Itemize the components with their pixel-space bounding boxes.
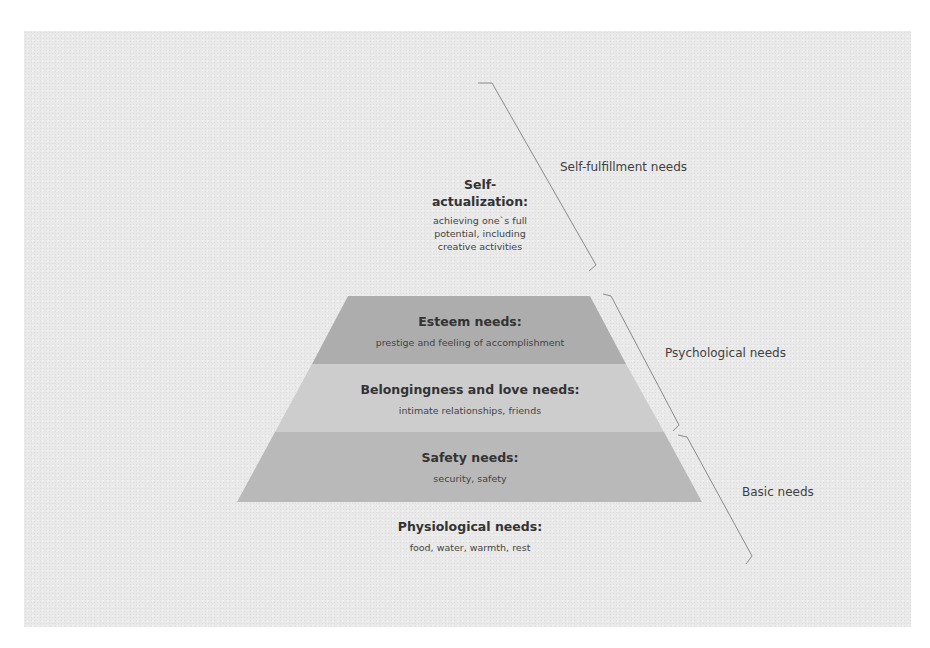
level-safety: Safety needs: security, safety xyxy=(340,449,600,485)
group-label-self-fulfillment: Self-fulfillment needs xyxy=(560,160,687,174)
level-esteem: Esteem needs: prestige and feeling of ac… xyxy=(320,313,620,349)
level-description: achieving one`s full xyxy=(400,214,560,227)
level-self-actualization: Self- actualization: achieving one`s ful… xyxy=(400,176,560,253)
level-title: Self- xyxy=(400,176,560,193)
level-title: Belongingness and love needs: xyxy=(300,381,640,398)
level-title: Esteem needs: xyxy=(320,313,620,330)
level-physiological: Physiological needs: food, water, warmth… xyxy=(330,518,610,554)
level-title: Physiological needs: xyxy=(330,518,610,535)
level-belongingness: Belongingness and love needs: intimate r… xyxy=(300,381,640,417)
level-title: actualization: xyxy=(400,193,560,210)
level-description: food, water, warmth, rest xyxy=(330,541,610,554)
level-title: Safety needs: xyxy=(340,449,600,466)
level-description: security, safety xyxy=(340,472,600,485)
group-label-basic: Basic needs xyxy=(742,485,814,499)
level-description: intimate relationships, friends xyxy=(300,404,640,417)
level-description: creative activities xyxy=(400,240,560,253)
level-description: prestige and feeling of accomplishment xyxy=(320,336,620,349)
level-description: potential, including xyxy=(400,227,560,240)
group-label-psychological: Psychological needs xyxy=(665,346,786,360)
